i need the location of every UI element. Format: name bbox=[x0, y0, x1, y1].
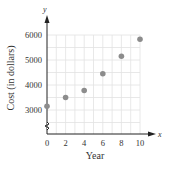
x-tick-label: 10 bbox=[136, 138, 145, 148]
x-tick-label: 8 bbox=[119, 138, 123, 148]
x-axis-label: Year bbox=[86, 150, 105, 161]
data-point bbox=[119, 53, 125, 59]
data-point bbox=[63, 95, 69, 101]
data-point bbox=[81, 88, 87, 94]
y-axis-label: Cost (in dollars) bbox=[5, 46, 17, 111]
data-point bbox=[100, 71, 106, 77]
scatter-chart: 3000400050006000 0246810 y x Year Cost (… bbox=[0, 0, 173, 174]
y-tick-label: 4000 bbox=[25, 80, 42, 90]
axis-break-icon bbox=[45, 122, 49, 134]
grid bbox=[47, 35, 140, 134]
x-tick-labels: 0246810 bbox=[45, 138, 144, 148]
x-axis-arrow-icon bbox=[148, 132, 156, 137]
y-axis-letter: y bbox=[42, 5, 47, 14]
y-tick-label: 5000 bbox=[25, 55, 42, 65]
x-axis-letter: x bbox=[157, 130, 162, 139]
y-tick-labels: 3000400050006000 bbox=[25, 30, 42, 115]
data-point bbox=[137, 36, 143, 42]
y-tick-label: 3000 bbox=[25, 105, 42, 115]
axes bbox=[45, 15, 157, 137]
x-tick-label: 6 bbox=[101, 138, 105, 148]
y-axis-arrow-icon bbox=[45, 15, 50, 23]
data-point bbox=[44, 103, 50, 109]
x-tick-label: 0 bbox=[45, 138, 49, 148]
x-tick-label: 2 bbox=[63, 138, 67, 148]
x-tick-label: 4 bbox=[82, 138, 87, 148]
y-tick-label: 6000 bbox=[25, 30, 42, 40]
